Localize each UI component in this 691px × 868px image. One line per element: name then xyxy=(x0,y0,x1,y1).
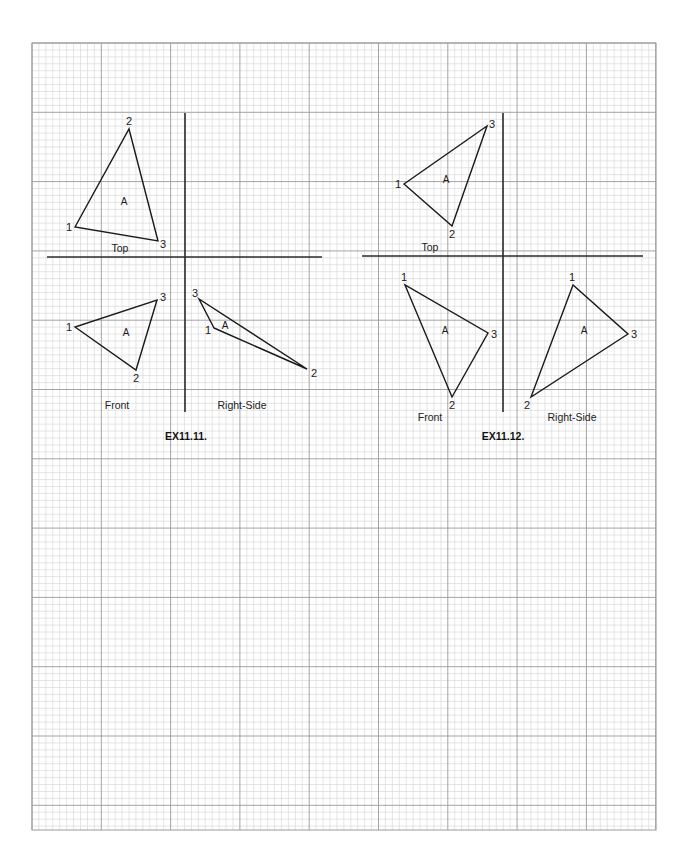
vertex-label-1: 1 xyxy=(569,272,575,283)
view-label-right-side: Right-Side xyxy=(547,412,596,423)
vertex-label-3: 3 xyxy=(491,329,497,340)
vertex-label-2: 2 xyxy=(311,368,317,379)
vertex-label-1: 1 xyxy=(395,179,401,190)
vertex-label-1: 1 xyxy=(66,222,72,233)
vertex-label-1: 1 xyxy=(401,272,407,283)
view-label-front: Front xyxy=(105,400,130,411)
vertex-label-3: 3 xyxy=(192,288,198,299)
face-label: A xyxy=(222,321,229,331)
vertex-label-2: 2 xyxy=(133,373,139,384)
view-label-front: Front xyxy=(418,412,443,423)
vertex-label-1: 1 xyxy=(66,322,72,333)
vertex-label-1: 1 xyxy=(205,325,211,336)
vertex-label-2: 2 xyxy=(449,229,455,240)
vertex-label-3: 3 xyxy=(160,239,166,250)
face-label: A xyxy=(442,326,449,336)
exercise-ex11-12 xyxy=(404,126,628,397)
vertex-label-3: 3 xyxy=(631,329,637,340)
view-label-right-side: Right-Side xyxy=(217,400,266,411)
vertex-label-2: 2 xyxy=(449,400,455,411)
vertex-label-2: 2 xyxy=(126,116,132,127)
exercise-caption: EX11.11. xyxy=(165,431,207,442)
graph-paper-canvas xyxy=(0,0,691,868)
vertex-label-3: 3 xyxy=(160,292,166,303)
face-label: A xyxy=(581,326,588,336)
face-label: A xyxy=(123,328,130,338)
view-label-top: Top xyxy=(422,242,439,253)
face-label: A xyxy=(443,175,450,185)
exercise-caption: EX11.12. xyxy=(482,431,525,442)
vertex-label-3: 3 xyxy=(489,119,495,130)
view-label-top: Top xyxy=(112,243,129,254)
face-label: A xyxy=(121,197,128,207)
vertex-label-2: 2 xyxy=(524,400,530,411)
grid-minor-lines xyxy=(32,43,656,830)
